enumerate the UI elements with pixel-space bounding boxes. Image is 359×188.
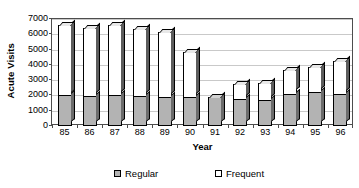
bar-segment-side-face [271, 95, 275, 122]
bar-segment-side-face [146, 24, 150, 93]
legend-item-frequent[interactable]: Frequent [215, 168, 264, 179]
bar-segment-frequent[interactable] [158, 32, 172, 98]
legend-label: Frequent [226, 168, 264, 179]
bars-layer [52, 18, 353, 125]
y-axis-title: Acute Visits [2, 18, 18, 124]
bar-segment-side-face [171, 92, 175, 122]
bar-segment-side-face [121, 20, 125, 92]
y-axis-tick-label: 0 [18, 120, 48, 130]
bar-segment-side-face [196, 47, 200, 94]
x-axis-title: Year [52, 141, 353, 152]
bar-stack [108, 25, 122, 125]
bar-segment-frequent[interactable] [58, 25, 72, 97]
x-axis-tick-label: 90 [178, 127, 202, 138]
y-axis-tick-label: 4000 [18, 59, 48, 69]
x-axis-tick-label: 94 [278, 127, 302, 138]
x-axis-tick-labels: 858687888990919293949596 [52, 127, 353, 140]
bar-segment-frequent[interactable] [108, 25, 122, 96]
legend-swatch-icon [114, 170, 121, 177]
bar-segment-side-face [321, 87, 325, 122]
bar-segment-regular[interactable] [308, 92, 322, 126]
y-axis-title-label: Acute Visits [5, 43, 16, 98]
bar-segment-regular[interactable] [183, 97, 197, 126]
bar-segment-regular[interactable] [133, 96, 147, 126]
bar-stack [308, 67, 322, 125]
bar-segment-side-face [71, 19, 75, 92]
x-axis-tick-label: 87 [103, 127, 127, 138]
y-axis-tick-label: 3000 [18, 74, 48, 84]
bar-stack [333, 61, 347, 125]
x-axis-tick-label: 89 [153, 127, 177, 138]
bar-segment-frequent[interactable] [183, 52, 197, 98]
legend-label: Regular [125, 168, 158, 179]
x-axis-tick-label: 88 [128, 127, 152, 138]
y-axis-tick-labels: 01000200030004000500060007000 [18, 13, 48, 129]
x-axis-tick-label: 92 [228, 127, 252, 138]
bar-segment-side-face [196, 92, 200, 122]
bar-stack [283, 70, 297, 125]
bar-segment-regular[interactable] [233, 99, 247, 126]
chart-screenshot: Acute Visits 010002000300040005000600070… [0, 0, 359, 188]
bar-stack [183, 52, 197, 125]
y-axis-tick-label: 5000 [18, 44, 48, 54]
bar-stack [258, 83, 272, 125]
x-axis-tick-label: 95 [303, 127, 327, 138]
bar-stack [83, 28, 97, 125]
bar-segment-regular[interactable] [333, 94, 347, 126]
bar-segment-regular[interactable] [108, 95, 122, 126]
bar-segment-side-face [246, 94, 250, 122]
y-axis-tick-label: 2000 [18, 89, 48, 99]
bar-stack [208, 97, 222, 125]
bar-segment-side-face [96, 91, 100, 122]
bar-stack [158, 32, 172, 125]
x-axis-tick-label: 91 [203, 127, 227, 138]
bar-segment-side-face [346, 89, 350, 122]
y-axis-tick-label: 7000 [18, 13, 48, 23]
legend-swatch-icon [215, 170, 222, 177]
bar-segment-side-face [96, 23, 100, 93]
bar-stack [233, 84, 247, 125]
bar-stack [58, 25, 72, 125]
bar-segment-regular[interactable] [83, 96, 97, 126]
bar-segment-regular[interactable] [283, 94, 297, 126]
bar-segment-side-face [171, 27, 175, 94]
bar-segment-side-face [296, 89, 300, 122]
bar-segment-frequent[interactable] [83, 28, 97, 97]
x-axis-tick-label: 85 [53, 127, 77, 138]
bar-segment-side-face [71, 90, 75, 122]
bar-segment-regular[interactable] [208, 97, 222, 126]
bar-segment-frequent[interactable] [333, 61, 347, 95]
x-axis-tick-label: 86 [78, 127, 102, 138]
bar-segment-frequent[interactable] [133, 29, 147, 97]
legend-item-regular[interactable]: Regular [114, 168, 158, 179]
bar-segment-side-face [121, 90, 125, 122]
bar-segment-regular[interactable] [258, 100, 272, 126]
x-axis-tick-label: 93 [253, 127, 277, 138]
bar-segment-regular[interactable] [158, 97, 172, 126]
bar-segment-regular[interactable] [58, 95, 72, 126]
y-axis-tick-label: 6000 [18, 28, 48, 38]
bar-segment-side-face [146, 91, 150, 122]
bar-segment-top-face [59, 22, 75, 26]
bar-segment-side-face [346, 56, 350, 91]
chart-legend: RegularFrequent [52, 165, 353, 181]
y-axis-tick-label: 1000 [18, 105, 48, 115]
x-axis-tick-label: 96 [328, 127, 352, 138]
bar-stack [133, 29, 147, 125]
